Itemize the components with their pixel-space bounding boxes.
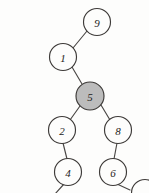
node-label-8: 8 [115,125,121,137]
tree-node-5[interactable]: 5 [76,82,104,110]
tree-diagram-canvas: 9 1 5 2 8 4 6 [0,0,149,193]
node-label-2: 2 [59,125,65,137]
node-label-9: 9 [94,17,100,29]
tree-node-6[interactable]: 6 [100,159,127,186]
node-label-5: 5 [87,91,93,103]
tree-node-9[interactable]: 9 [84,9,111,36]
tree-node-8[interactable]: 8 [105,117,132,144]
node-label-4: 4 [65,167,71,179]
node-label-1: 1 [60,52,66,64]
node-label-6: 6 [110,167,116,179]
tree-diagram-figure: 9 1 5 2 8 4 6 [0,0,149,193]
tree-node-1[interactable]: 1 [50,44,77,71]
tree-node-2[interactable]: 2 [49,117,76,144]
tree-node-4[interactable]: 4 [55,159,82,186]
